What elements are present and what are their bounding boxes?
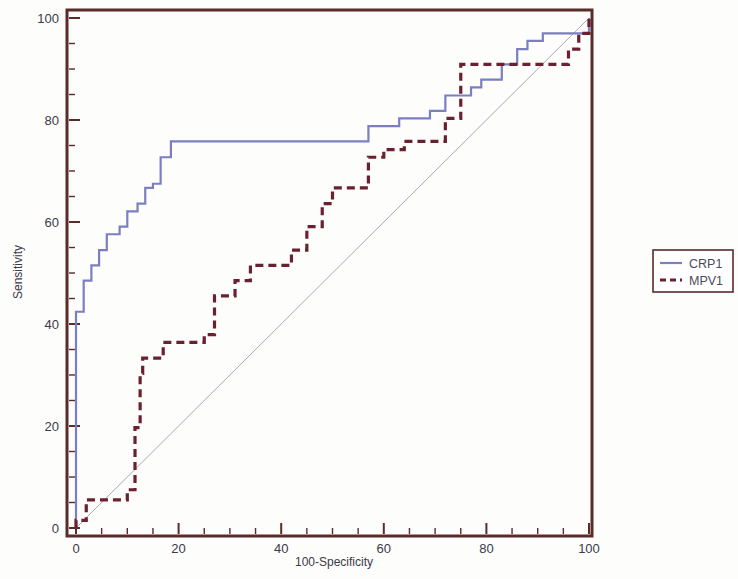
x-tick-label: 40 (274, 541, 288, 556)
x-tick-label: 80 (479, 541, 493, 556)
y-tick-label: 40 (45, 317, 59, 332)
legend-label-crp1: CRP1 (689, 257, 722, 271)
y-tick-label: 0 (52, 521, 59, 536)
roc-chart-page: 020406080100 020406080100 100-Specificit… (0, 0, 738, 579)
x-axis-title: 100-Specificity (295, 555, 373, 569)
y-tick-label: 80 (45, 113, 59, 128)
legend: CRP1MPV1 (653, 250, 733, 292)
x-tick-label: 100 (578, 541, 600, 556)
y-tick-label: 100 (37, 11, 59, 26)
chart-background (0, 0, 738, 579)
x-tick-label: 20 (171, 541, 185, 556)
roc-chart-svg: 020406080100 020406080100 100-Specificit… (0, 0, 738, 579)
legend-label-mpv1: MPV1 (689, 274, 723, 288)
y-tick-label: 60 (45, 215, 59, 230)
y-axis-title: Sensitivity (11, 245, 25, 299)
x-tick-label: 0 (72, 541, 79, 556)
y-tick-label: 20 (45, 419, 59, 434)
x-tick-label: 60 (377, 541, 391, 556)
